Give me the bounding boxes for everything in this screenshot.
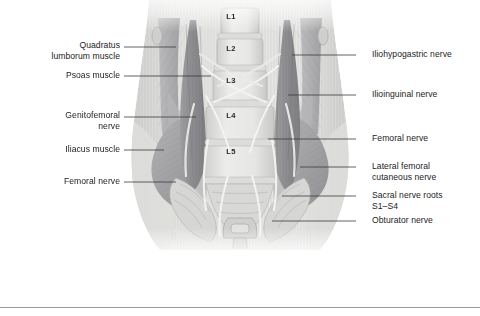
label-femoral-nerve-left: Femoral nerve bbox=[64, 176, 120, 187]
vertebra-label-l5: L5 bbox=[223, 147, 239, 156]
label-femoral-nerve-right: Femoral nerve bbox=[372, 133, 428, 144]
vertebra-label-l2: L2 bbox=[223, 44, 239, 53]
label-lateral-femoral-cutaneous-nerve: Lateral femoral cutaneous nerve bbox=[372, 161, 436, 183]
vertebra-label-l4: L4 bbox=[223, 111, 239, 120]
label-obturator-nerve: Obturator nerve bbox=[372, 215, 433, 226]
label-psoas-muscle: Psoas muscle bbox=[66, 70, 120, 81]
vertebra-label-l1: L1 bbox=[223, 12, 239, 21]
vertebra-label-l3: L3 bbox=[223, 76, 239, 85]
label-ilioinguinal-nerve: Ilioinguinal nerve bbox=[372, 89, 437, 100]
label-quadratus-lumborum-muscle: Quadratus lumborum muscle bbox=[51, 40, 120, 62]
label-iliohypogastric-nerve: Iliohypogastric nerve bbox=[372, 49, 452, 60]
bottom-rule bbox=[0, 307, 480, 308]
label-iliacus-muscle: Iliacus muscle bbox=[65, 144, 120, 155]
anatomy-figure: Quadratus lumborum muscle Psoas muscle G… bbox=[0, 0, 480, 316]
label-genitofemoral-nerve: Genitofemoral nerve bbox=[65, 110, 120, 132]
label-sacral-nerve-roots: Sacral nerve roots S1–S4 bbox=[372, 190, 443, 212]
